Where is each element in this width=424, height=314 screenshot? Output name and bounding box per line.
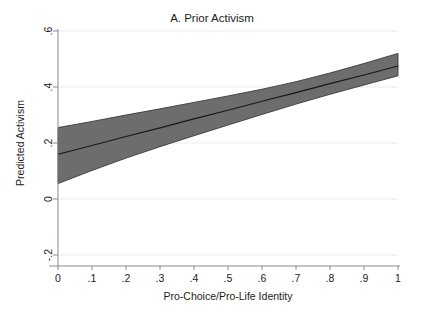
y-tick-label-3: .4 — [42, 82, 54, 91]
x-tick-label-10: 1 — [395, 272, 401, 284]
prediction-line — [58, 66, 398, 154]
chart-canvas: 0.1.2.3.4.5.6.7.8.91 -.20.2.4.6 A. Prior… — [0, 0, 424, 314]
chart-figure: 0.1.2.3.4.5.6.7.8.91 -.20.2.4.6 A. Prior… — [0, 0, 424, 314]
ci-band-polygon — [58, 53, 398, 183]
y-axis-tick-labels: -.20.2.4.6 — [42, 26, 54, 261]
x-axis-title: Pro-Choice/Pro-Life Identity — [164, 290, 294, 302]
x-tick-label-3: .3 — [156, 272, 165, 284]
x-tick-label-2: .2 — [122, 272, 131, 284]
y-axis-title: Predicted Activism — [14, 100, 26, 186]
x-tick-label-8: .8 — [326, 272, 335, 284]
x-tick-label-4: .4 — [190, 272, 199, 284]
y-tick-label-2: .2 — [42, 138, 54, 147]
x-tick-label-6: .6 — [258, 272, 267, 284]
x-tick-label-5: .5 — [224, 272, 233, 284]
x-tick-label-7: .7 — [292, 272, 301, 284]
fit-line-path — [58, 66, 398, 154]
x-tick-label-0: 0 — [55, 272, 61, 284]
confidence-interval-band — [58, 53, 398, 183]
x-tick-label-1: .1 — [88, 272, 97, 284]
y-tick-label-1: 0 — [42, 196, 54, 202]
y-tick-label-0: -.2 — [42, 249, 54, 261]
x-axis-tick-labels: 0.1.2.3.4.5.6.7.8.91 — [55, 272, 401, 284]
x-tick-label-9: .9 — [360, 272, 369, 284]
y-tick-label-4: .6 — [42, 26, 54, 35]
x-axis-ticks — [58, 266, 398, 270]
chart-title: A. Prior Activism — [170, 12, 254, 24]
